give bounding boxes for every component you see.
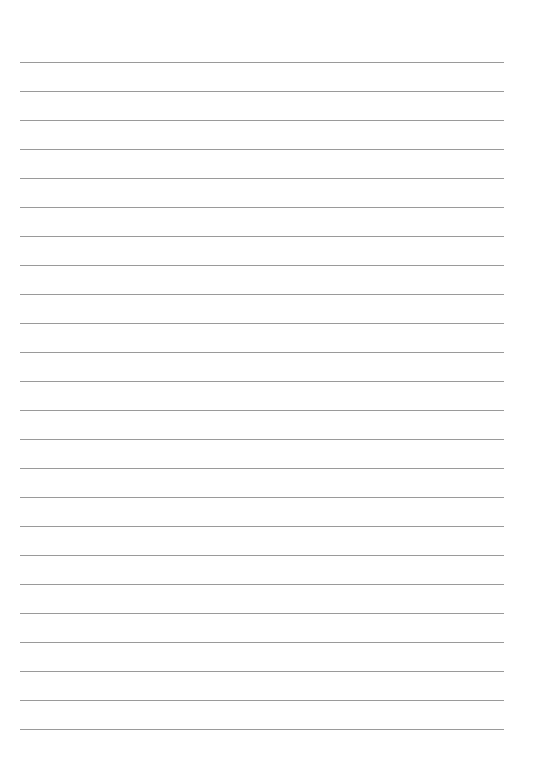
ruled-line bbox=[20, 294, 504, 295]
ruled-line bbox=[20, 555, 504, 556]
ruled-line bbox=[20, 236, 504, 237]
ruled-line bbox=[20, 671, 504, 672]
ruled-line bbox=[20, 468, 504, 469]
ruled-line bbox=[20, 584, 504, 585]
ruled-line bbox=[20, 613, 504, 614]
ruled-line bbox=[20, 62, 504, 63]
ruled-line bbox=[20, 497, 504, 498]
ruled-line bbox=[20, 439, 504, 440]
ruled-line bbox=[20, 381, 504, 382]
ruled-line bbox=[20, 352, 504, 353]
ruled-line bbox=[20, 149, 504, 150]
ruled-line bbox=[20, 91, 504, 92]
ruled-line bbox=[20, 729, 504, 730]
lined-paper-page bbox=[0, 0, 540, 759]
ruled-line bbox=[20, 207, 504, 208]
ruled-line bbox=[20, 178, 504, 179]
ruled-line bbox=[20, 526, 504, 527]
ruled-line bbox=[20, 410, 504, 411]
ruled-line bbox=[20, 700, 504, 701]
ruled-line bbox=[20, 265, 504, 266]
ruled-line bbox=[20, 642, 504, 643]
ruled-line bbox=[20, 323, 504, 324]
ruled-line bbox=[20, 120, 504, 121]
